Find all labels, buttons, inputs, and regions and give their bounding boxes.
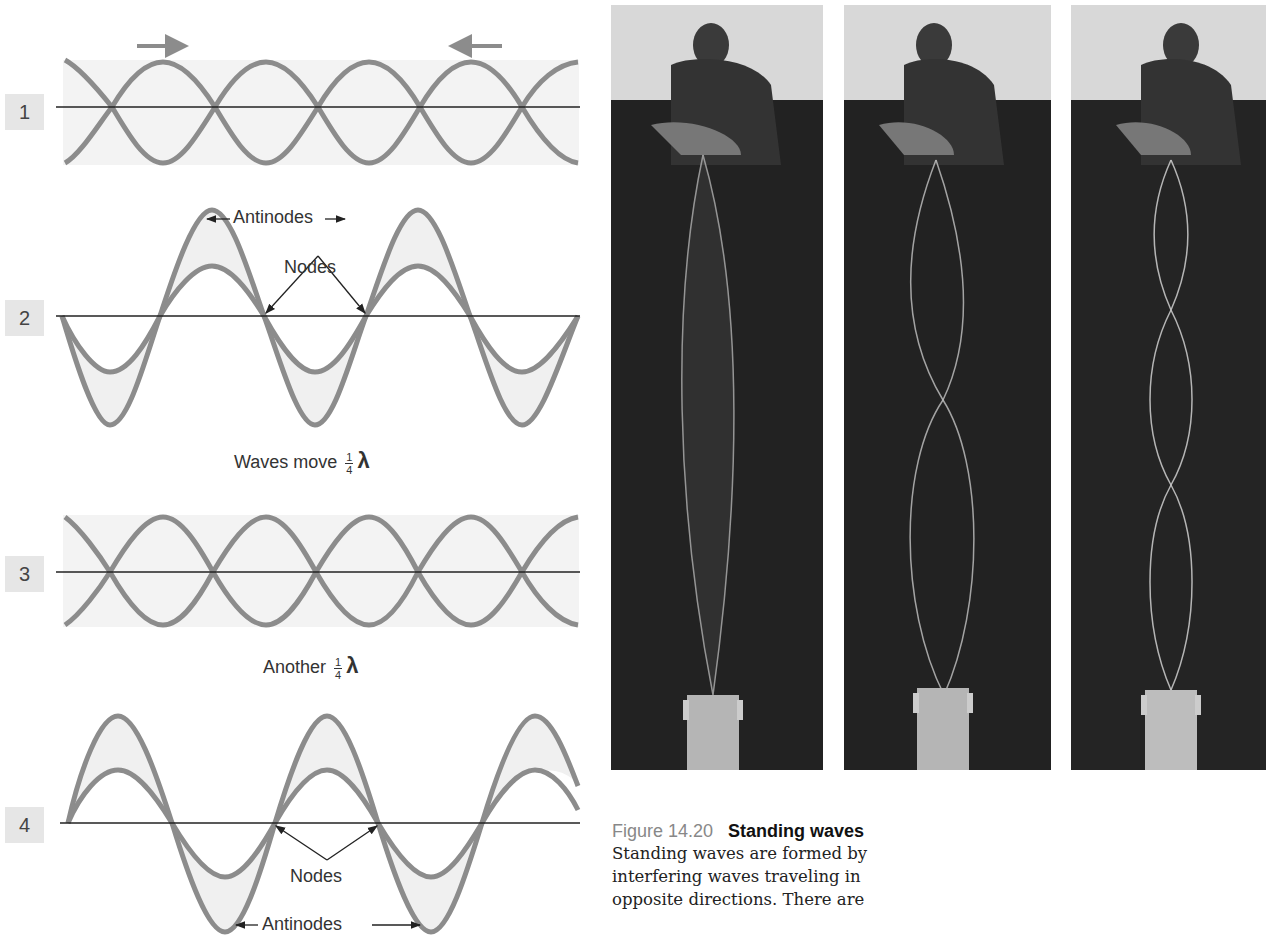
quarter-fraction: 14 bbox=[334, 656, 342, 681]
caption-body: Standing waves are formed by interfering… bbox=[612, 842, 912, 911]
antinodes-label-top: Antinodes bbox=[233, 207, 313, 228]
panel-2-waves bbox=[56, 210, 580, 425]
photo-three-loops bbox=[1071, 5, 1266, 770]
step1-text: Waves move bbox=[234, 452, 337, 472]
nodes-label-bottom: Nodes bbox=[290, 866, 342, 887]
panel-4-waves bbox=[60, 716, 580, 932]
caption-line: Standing waves are formed by bbox=[612, 842, 912, 865]
figure-title: Standing waves bbox=[728, 821, 864, 841]
panel-1-waves bbox=[56, 46, 580, 165]
step2-caption: Another14λ bbox=[263, 653, 358, 681]
lambda-symbol: λ bbox=[357, 448, 369, 473]
caption-line: interfering waves traveling in bbox=[612, 865, 912, 888]
step1-caption: Waves move14λ bbox=[234, 448, 370, 476]
caption-line: opposite directions. There are bbox=[612, 888, 912, 911]
photo-one-loop bbox=[611, 5, 823, 770]
antinodes-label-bottom: Antinodes bbox=[262, 914, 342, 935]
figure-caption: Figure 14.20 Standing waves Standing wav… bbox=[612, 820, 912, 911]
quarter-fraction: 14 bbox=[345, 451, 353, 476]
nodes-label-top: Nodes bbox=[284, 257, 336, 278]
figure-number: Figure 14.20 bbox=[612, 821, 713, 841]
lambda-symbol: λ bbox=[346, 653, 358, 678]
photo-two-loops bbox=[844, 5, 1051, 770]
step2-text: Another bbox=[263, 657, 326, 677]
panel-3-waves bbox=[56, 515, 580, 627]
caption-title: Figure 14.20 Standing waves bbox=[612, 820, 912, 842]
